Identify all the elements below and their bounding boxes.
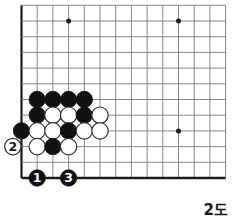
black-stone (76, 107, 92, 123)
numbered-move-3: 3 (60, 170, 76, 186)
black-stone (29, 91, 45, 107)
go-diagram: 123 2도 (0, 0, 236, 223)
white-stone (60, 138, 76, 154)
white-stone (92, 123, 108, 139)
numbered-move-2: 2 (5, 138, 21, 154)
star-point (176, 128, 181, 133)
go-board: 123 (0, 0, 236, 223)
black-stone (13, 123, 29, 139)
white-stone (76, 123, 92, 139)
white-stone (60, 107, 76, 123)
black-stone (45, 138, 61, 154)
move-number-label: 3 (64, 170, 73, 185)
white-stone (45, 107, 61, 123)
white-stone (29, 123, 45, 139)
black-stone (60, 91, 76, 107)
move-number-label: 1 (33, 170, 42, 185)
diagram-caption: 2도 (204, 198, 228, 219)
star-point (176, 19, 181, 24)
black-stone (29, 107, 45, 123)
white-stone (45, 123, 61, 139)
stones-layer (13, 91, 108, 155)
black-stone (60, 123, 76, 139)
white-stone (29, 138, 45, 154)
black-stone (76, 91, 92, 107)
star-point (66, 19, 71, 24)
move-number-label: 2 (9, 139, 18, 154)
white-stone (92, 107, 108, 123)
numbered-move-1: 1 (29, 170, 45, 186)
black-stone (45, 91, 61, 107)
